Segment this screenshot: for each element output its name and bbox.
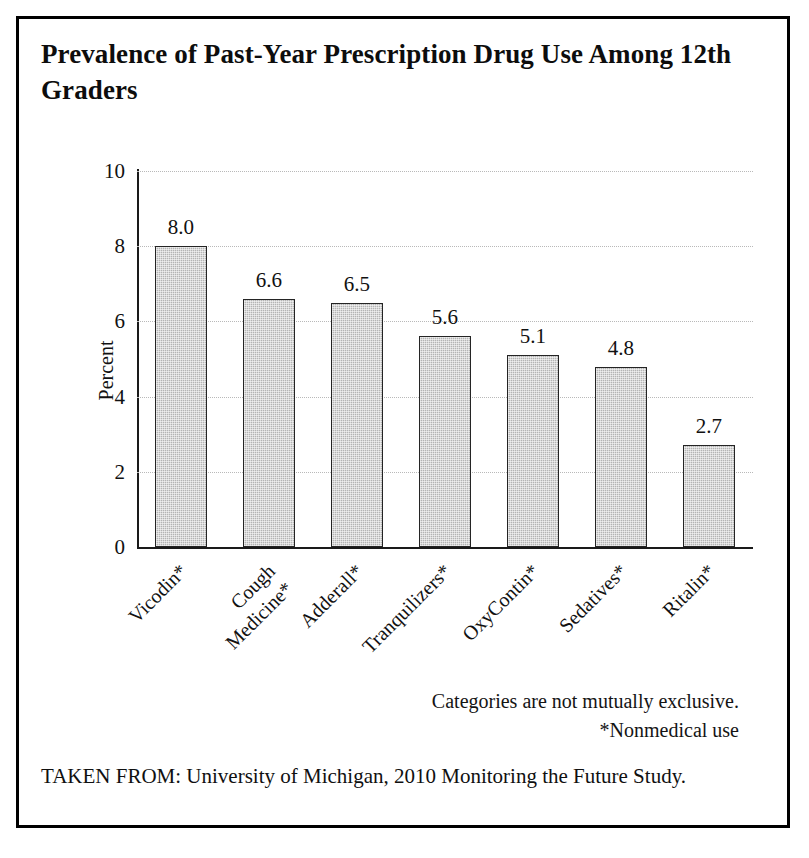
bars-layer: 8.06.66.55.65.14.82.7 xyxy=(137,171,753,547)
bar xyxy=(683,445,736,547)
bar-group: 5.6 xyxy=(419,171,472,547)
y-axis-tick-label: 2 xyxy=(115,459,126,484)
bar xyxy=(331,303,384,547)
source-attribution: TAKEN FROM: University of Michigan, 2010… xyxy=(41,764,771,789)
bar-group: 8.0 xyxy=(155,171,208,547)
x-axis-line xyxy=(137,547,753,549)
bar xyxy=(419,336,472,547)
bar xyxy=(243,299,296,547)
x-axis-labels: Vicodin*Cough Medicine*Adderall*Tranquil… xyxy=(137,553,753,683)
y-axis-tick-label: 10 xyxy=(104,159,125,184)
y-axis-tick-label: 4 xyxy=(115,384,126,409)
y-axis-tick-label: 6 xyxy=(115,309,126,334)
bar-group: 5.1 xyxy=(507,171,560,547)
bar-value-label: 8.0 xyxy=(155,215,208,240)
bar xyxy=(155,246,208,547)
footnote-line: *Nonmedical use xyxy=(319,716,739,745)
bar-value-label: 5.1 xyxy=(507,324,560,349)
bar-group: 6.5 xyxy=(331,171,384,547)
y-axis-tick-label: 0 xyxy=(115,535,126,560)
bar-group: 2.7 xyxy=(683,171,736,547)
bar-group: 4.8 xyxy=(595,171,648,547)
bar xyxy=(595,367,648,547)
bar xyxy=(507,355,560,547)
y-axis-tick-label: 8 xyxy=(115,234,126,259)
bar-value-label: 2.7 xyxy=(683,414,736,439)
footnotes: Categories are not mutually exclusive. *… xyxy=(319,687,739,745)
bar-group: 6.6 xyxy=(243,171,296,547)
bar-value-label: 4.8 xyxy=(595,336,648,361)
bar-value-label: 6.6 xyxy=(243,268,296,293)
bar-value-label: 5.6 xyxy=(419,305,472,330)
bar-value-label: 6.5 xyxy=(331,272,384,297)
footnote-line: Categories are not mutually exclusive. xyxy=(319,687,739,716)
figure-frame: Prevalence of Past-Year Prescription Dru… xyxy=(16,16,790,828)
